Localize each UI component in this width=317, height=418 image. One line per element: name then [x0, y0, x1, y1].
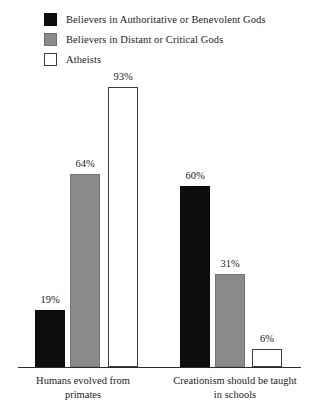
x-axis-category-label-1: Creationism should be taught in schools: [157, 374, 313, 402]
bar-group1-series1: [215, 274, 245, 367]
category-label-line2: in schools: [157, 388, 313, 402]
bar-group0-series0: [35, 310, 65, 367]
bar-group0-series1: [70, 174, 100, 367]
bar-value-label: 19%: [27, 294, 73, 306]
bar-chart-plot-area: 19% 64% 93% 60% 31% 6% Humans evolved fr…: [0, 0, 317, 418]
bar-group1-series0: [180, 186, 210, 367]
bar-value-label: 31%: [207, 258, 253, 270]
bar-value-label: 64%: [62, 158, 108, 170]
bar-value-label: 6%: [244, 333, 290, 345]
category-label-line1: Humans evolved from: [8, 374, 158, 388]
bar-group0-series2: [108, 87, 138, 367]
bar-group1-series2: [252, 349, 282, 367]
x-axis-category-label-0: Humans evolved from primates: [8, 374, 158, 402]
bar-value-label: 93%: [100, 71, 146, 83]
bar-value-label: 60%: [172, 170, 218, 182]
x-axis-baseline: [18, 367, 301, 368]
category-label-line2: primates: [8, 388, 158, 402]
category-label-line1: Creationism should be taught: [157, 374, 313, 388]
